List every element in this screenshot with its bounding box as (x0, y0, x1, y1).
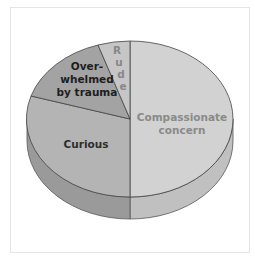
label-compassionate-line2: concern (159, 124, 206, 136)
label-rude-r: R (113, 44, 121, 56)
label-overwhelmed-line1: Over- (71, 60, 103, 72)
label-overwhelmed-line2: whelmed (60, 73, 113, 85)
label-rude-u: u (115, 56, 122, 68)
label-curious: Curious (64, 138, 109, 150)
label-compassionate-line1: Compassionate (137, 111, 227, 123)
label-overwhelmed-line3: by trauma (57, 86, 118, 98)
pie-chart: Compassionate concern Curious Over- whel… (0, 0, 255, 262)
label-rude-e: e (119, 80, 126, 92)
label-rude-d: d (117, 68, 125, 80)
